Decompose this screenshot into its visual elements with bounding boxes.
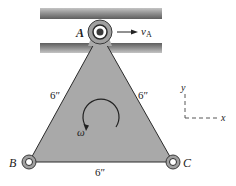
mechanism-diagram: A B C vA ω 6″ 6″ 6″ y x bbox=[0, 0, 236, 186]
pin-c bbox=[166, 155, 180, 169]
dimension-bottom-side: 6″ bbox=[95, 166, 105, 178]
pin-b bbox=[22, 155, 36, 169]
velocity-label: vA bbox=[141, 25, 152, 39]
point-a-label: A bbox=[75, 26, 84, 40]
velocity-arrow-icon bbox=[117, 30, 138, 35]
dimension-right-side: 6″ bbox=[138, 89, 148, 101]
point-c-label: C bbox=[183, 156, 192, 170]
x-axis-label: x bbox=[220, 112, 226, 123]
omega-label: ω bbox=[77, 126, 85, 138]
coordinate-axes bbox=[185, 94, 218, 118]
point-b-label: B bbox=[9, 156, 17, 170]
pin-a bbox=[88, 20, 112, 44]
y-axis-label: y bbox=[180, 82, 186, 93]
top-guide-rail bbox=[40, 8, 162, 19]
dimension-left-side: 6″ bbox=[50, 89, 60, 101]
